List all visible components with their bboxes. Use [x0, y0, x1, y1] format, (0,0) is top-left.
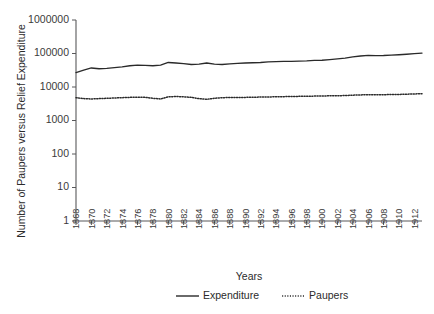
x-tick-label: 1890	[241, 209, 251, 229]
x-axis-ticks: 1868187018721874187618781880188218841886…	[71, 209, 419, 229]
x-tick-label: 1882	[179, 209, 189, 229]
series-line-paupers	[76, 94, 422, 100]
x-tick-label: 1894	[271, 209, 281, 229]
x-tick-label: 1874	[118, 209, 128, 229]
y-tick-label: 1	[63, 214, 69, 226]
y-axis-title: Number of Paupers versus Relief Expendit…	[15, 24, 27, 238]
x-tick-label: 1888	[225, 209, 235, 229]
y-axis-ticks: 1101001000100001000001000000	[28, 13, 76, 226]
x-tick-label: 1908	[379, 209, 389, 229]
x-tick-label: 1878	[148, 209, 158, 229]
y-tick-label: 1000000	[28, 13, 69, 25]
y-tick-label: 100000	[34, 46, 69, 58]
x-tick-label: 1884	[194, 209, 204, 229]
legend-label-paupers: Paupers	[309, 289, 348, 301]
y-axis-title-group: Number of Paupers versus Relief Expendit…	[15, 24, 27, 238]
x-tick-label: 1870	[87, 209, 97, 229]
chart-legend: ExpenditurePaupers	[176, 289, 348, 301]
y-tick-label: 100	[51, 147, 69, 159]
chart-container: Number of Paupers versus Relief Expendit…	[0, 0, 434, 314]
legend-label-expenditure: Expenditure	[203, 289, 259, 301]
x-tick-label: 1880	[164, 209, 174, 229]
x-tick-label: 1904	[348, 209, 358, 229]
y-tick-label: 1000	[46, 113, 70, 125]
x-tick-label: 1898	[302, 209, 312, 229]
x-tick-label: 1900	[317, 209, 327, 229]
relief-expenditure-line-chart: Number of Paupers versus Relief Expendit…	[0, 0, 434, 314]
x-tick-label: 1892	[256, 209, 266, 229]
x-tick-label: 1912	[410, 209, 420, 229]
series-group	[76, 53, 422, 99]
x-tick-label: 1906	[364, 209, 374, 229]
x-tick-label: 1902	[333, 209, 343, 229]
x-tick-label: 1876	[133, 209, 143, 229]
y-tick-label: 10000	[40, 80, 69, 92]
x-tick-label: 1896	[287, 209, 297, 229]
x-tick-label: 1910	[394, 209, 404, 229]
x-axis-title: Years	[236, 270, 262, 282]
x-tick-label: 1872	[102, 209, 112, 229]
x-tick-label: 1886	[210, 209, 220, 229]
series-line-expenditure	[76, 53, 422, 72]
y-tick-label: 10	[57, 180, 69, 192]
